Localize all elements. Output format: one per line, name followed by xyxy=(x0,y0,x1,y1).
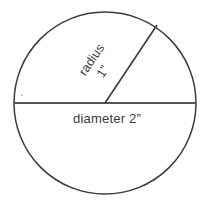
radius-line xyxy=(105,25,157,103)
circle-diagram: diameter 2” radius 1” xyxy=(0,0,208,204)
diameter-label: diameter 2” xyxy=(73,111,141,126)
diagram-canvas: diameter 2” radius 1” xyxy=(0,0,208,204)
tick-dot xyxy=(21,94,23,96)
radius-value-label: 1” xyxy=(94,63,112,80)
